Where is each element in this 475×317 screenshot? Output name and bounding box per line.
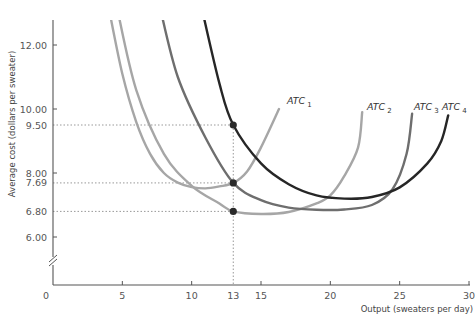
x-tick-label: 13 — [227, 290, 239, 301]
x-axis-title: Output (sweaters per day) — [361, 304, 473, 314]
label-atc1: ATC1 — [286, 95, 312, 109]
x-tick-label: 15 — [255, 290, 267, 301]
label-atc3: ATC3 — [413, 101, 439, 115]
reference-lines — [53, 125, 233, 285]
curve-atc4 — [201, 7, 448, 199]
x-axis-ticks: 5101315202530 — [119, 281, 475, 301]
highlight-dot — [230, 121, 237, 128]
highlight-dot — [230, 179, 237, 186]
label-atc2: ATC2 — [366, 101, 392, 115]
label-atc4: ATC4 — [441, 101, 467, 115]
y-axis-title: Average cost (dollars per sweater) — [7, 51, 17, 197]
x-tick-label: 30 — [463, 290, 475, 301]
y-axis-ticks: 6.006.807.698.009.5010.0012.00 — [20, 40, 57, 243]
x-tick-label: 20 — [324, 290, 336, 301]
highlight-dot — [230, 208, 237, 215]
x-tick-label: 10 — [186, 290, 198, 301]
atc-chart: 5101315202530 6.006.807.698.009.5010.001… — [0, 0, 475, 317]
x-tick-label: 5 — [119, 290, 125, 301]
curve-atc1 — [109, 7, 280, 189]
y-tick-label: 8.00 — [26, 168, 47, 179]
curve-labels: ATC1ATC2ATC3ATC4 — [286, 95, 467, 115]
x-tick-label: 25 — [394, 290, 406, 301]
y-tick-label: 7.69 — [26, 177, 47, 188]
y-tick-label: 6.80 — [26, 206, 47, 217]
y-tick-label: 12.00 — [20, 40, 47, 51]
curve-atc2 — [117, 7, 362, 214]
y-tick-label: 6.00 — [26, 232, 47, 243]
y-tick-label: 9.50 — [26, 120, 47, 131]
y-tick-label: 10.00 — [20, 104, 47, 115]
origin-label: 0 — [43, 290, 49, 301]
